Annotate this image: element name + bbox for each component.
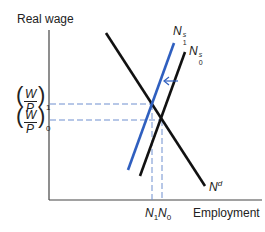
x-axis-label: Employment xyxy=(193,206,260,220)
labor-market-diagram: Real wage Employment ( W P ) 1 ( W P ) 0… xyxy=(0,0,265,232)
x-tick-n1: N1 xyxy=(145,206,158,222)
label-ns0: Ns0 xyxy=(189,44,204,58)
labor-supply-1-curve xyxy=(128,43,174,170)
label-ns1: Ns1 xyxy=(173,24,188,38)
x-tick-n0: N0 xyxy=(158,206,171,222)
label-nd: Nd xyxy=(209,179,222,194)
y-axis-label: Real wage xyxy=(17,12,74,26)
